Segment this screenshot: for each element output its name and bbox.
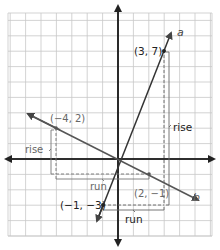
- label-point-neg1-neg3: (−1, −3): [60, 199, 106, 211]
- label-rise-b: rise: [25, 144, 43, 155]
- label-run-b: run: [90, 181, 107, 192]
- point-neg4-2: [54, 126, 58, 130]
- point-2-neg1: [147, 172, 151, 176]
- guides-line-b: [49, 128, 149, 181]
- label-point-2-neg1: (2, −1): [134, 188, 169, 199]
- label-line-b: b: [193, 191, 200, 204]
- point-3-7: [162, 49, 166, 53]
- label-rise-a: rise: [173, 121, 192, 133]
- label-run-a: run: [125, 213, 143, 225]
- label-point-3-7: (3, 7): [134, 45, 162, 57]
- coordinate-plane: (3, 7) (−4, 2) (−1, −3) (2, −1) a b rise…: [0, 0, 220, 250]
- rise-bracket-b: [51, 130, 54, 174]
- label-point-neg4-2: (−4, 2): [50, 113, 85, 124]
- label-line-a: a: [177, 26, 184, 39]
